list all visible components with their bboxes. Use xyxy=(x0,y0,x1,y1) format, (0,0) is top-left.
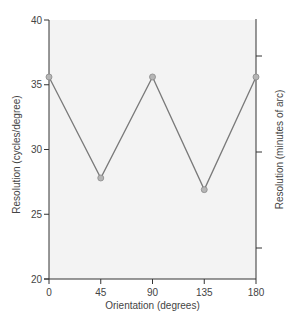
y-tick-label: 25 xyxy=(31,209,43,220)
data-point xyxy=(150,74,156,80)
y-tick-label: 35 xyxy=(31,79,43,90)
data-point xyxy=(46,74,52,80)
x-tick-label: 0 xyxy=(46,287,52,298)
resolution-chart: 2025303540 04590135180 Orientation (degr… xyxy=(0,0,299,327)
x-axis: 04590135180 xyxy=(44,279,265,298)
plot-area xyxy=(49,20,256,279)
x-tick-label: 135 xyxy=(196,287,213,298)
x-axis-label: Orientation (degrees) xyxy=(105,300,200,311)
y-tick-label: 30 xyxy=(31,144,43,155)
data-point xyxy=(98,175,104,181)
x-tick-label: 180 xyxy=(248,287,265,298)
x-tick-label: 90 xyxy=(147,287,159,298)
data-point xyxy=(253,74,259,80)
y-axis-right xyxy=(256,19,262,279)
x-tick-label: 45 xyxy=(95,287,107,298)
y-axis-label: Resolution (cycles/degree) xyxy=(11,95,22,213)
y-tick-label: 20 xyxy=(31,274,43,285)
y-tick-label: 40 xyxy=(31,15,43,26)
y-axis-left: 2025303540 xyxy=(31,15,49,285)
data-point xyxy=(201,187,207,193)
y2-axis-label: Resolution (minutes of arc) xyxy=(274,90,285,210)
